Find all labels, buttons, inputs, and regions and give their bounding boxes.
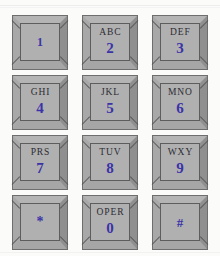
- key-digit: *: [37, 215, 44, 229]
- key-face: PRS7: [20, 143, 60, 181]
- key-digit: 7: [36, 161, 44, 176]
- key-letters: JKL: [100, 88, 120, 98]
- key-letters: TUV: [98, 148, 121, 158]
- scan-artifact-line: [0, 252, 220, 253]
- key-face: JKL5: [90, 83, 130, 121]
- key-letters: DEF: [169, 28, 191, 38]
- scan-artifact-line: [0, 7, 220, 8]
- key-face: OPER0: [90, 203, 130, 241]
- key-1[interactable]: 1: [12, 15, 68, 70]
- key-letters: ABC: [98, 28, 121, 38]
- key-8[interactable]: TUV8: [82, 135, 138, 190]
- key-letters: OPER: [96, 208, 125, 218]
- key-5[interactable]: JKL5: [82, 75, 138, 130]
- key-digit: 1: [37, 36, 43, 48]
- key-9[interactable]: WXY9: [152, 135, 208, 190]
- telephone-keypad: 1ABC2DEF3GHI4JKL5MNO6PRS7TUV8WXY9*OPER0#: [0, 0, 220, 256]
- keypad-grid: 1ABC2DEF3GHI4JKL5MNO6PRS7TUV8WXY9*OPER0#: [12, 15, 208, 250]
- key-pound[interactable]: #: [152, 195, 208, 250]
- key-digit: 2: [106, 41, 114, 56]
- scan-artifact-line: [0, 5, 220, 6]
- key-face: GHI4: [20, 83, 60, 121]
- key-face: WXY9: [160, 143, 200, 181]
- key-digit: 9: [176, 161, 184, 176]
- key-star[interactable]: *: [12, 195, 68, 250]
- key-4[interactable]: GHI4: [12, 75, 68, 130]
- key-face: 1: [20, 23, 60, 61]
- key-face: TUV8: [90, 143, 130, 181]
- key-6[interactable]: MNO6: [152, 75, 208, 130]
- key-2[interactable]: ABC2: [82, 15, 138, 70]
- key-3[interactable]: DEF3: [152, 15, 208, 70]
- key-digit: 0: [106, 221, 114, 236]
- key-digit: 4: [36, 101, 44, 116]
- key-digit: 5: [106, 101, 114, 116]
- key-face: DEF3: [160, 23, 200, 61]
- key-digit: 6: [176, 101, 184, 116]
- key-letters: WXY: [167, 148, 193, 158]
- key-letters: PRS: [30, 148, 51, 158]
- key-0[interactable]: OPER0: [82, 195, 138, 250]
- key-face: *: [20, 203, 60, 241]
- key-face: ABC2: [90, 23, 130, 61]
- key-face: MNO6: [160, 83, 200, 121]
- key-7[interactable]: PRS7: [12, 135, 68, 190]
- key-digit: 8: [106, 161, 114, 176]
- key-digit: #: [177, 216, 184, 229]
- key-digit: 3: [176, 41, 184, 56]
- key-face: #: [160, 203, 200, 241]
- key-letters: GHI: [30, 88, 50, 98]
- key-letters: MNO: [167, 88, 193, 98]
